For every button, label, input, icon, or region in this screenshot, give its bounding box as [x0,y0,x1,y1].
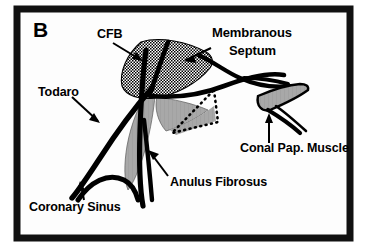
panel-letter: B [33,19,48,42]
label-membranous-septum: Membranous [212,26,292,40]
label-todaro: Todaro [38,86,79,100]
label-conal-pap-muscle: Conal Pap. Muscle [240,142,349,156]
label-membranous-septum-line2: Septum [229,44,276,58]
label-anulus-fibrosus: Anulus Fibrosus [170,176,267,190]
label-cfb: CFB [97,28,122,42]
figure-panel: B CFB Membranous Septum Todaro Conal Pap… [0,0,367,250]
label-coronary-sinus: Coronary Sinus [29,201,121,215]
